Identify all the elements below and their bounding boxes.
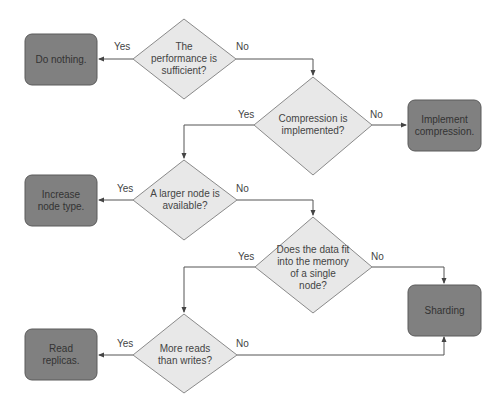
edge-larger-node-no bbox=[237, 200, 313, 215]
action-read-replicas-text: Read replicas. bbox=[33, 329, 89, 380]
label-larger-node-no: No bbox=[236, 183, 249, 195]
label-fits-memory-no: No bbox=[371, 251, 384, 263]
edge-performance-no bbox=[236, 59, 313, 75]
decision-larger-node-text: A larger node is available? bbox=[150, 180, 220, 220]
decision-reads-writes-text: More reads than writes? bbox=[155, 335, 215, 375]
edge-compression-yes bbox=[184, 125, 254, 158]
action-increase-node-text: Increase node type. bbox=[33, 175, 89, 226]
label-reads-writes-yes: Yes bbox=[117, 338, 133, 350]
decision-performance-text: The performance is sufficient? bbox=[148, 38, 220, 80]
edge-fits-memory-yes bbox=[184, 267, 255, 312]
edge-fits-memory-no bbox=[372, 267, 444, 283]
label-reads-writes-no: No bbox=[236, 338, 249, 350]
action-sharding-text: Sharding bbox=[410, 285, 479, 336]
label-fits-memory-yes: Yes bbox=[238, 251, 254, 263]
edge-reads-writes-no bbox=[237, 337, 444, 355]
label-compression-yes: Yes bbox=[238, 109, 254, 121]
action-do-nothing-text: Do nothing. bbox=[33, 34, 89, 85]
decision-fits-memory-text: Does the data fit into the memory of a s… bbox=[275, 237, 351, 299]
decision-compression-text: Compression is implemented? bbox=[262, 105, 364, 145]
label-compression-no: No bbox=[370, 109, 383, 121]
label-performance-yes: Yes bbox=[114, 41, 130, 53]
label-performance-no: No bbox=[236, 41, 249, 53]
label-larger-node-yes: Yes bbox=[117, 183, 133, 195]
action-implement-compression-text: Implement compression. bbox=[410, 100, 479, 151]
